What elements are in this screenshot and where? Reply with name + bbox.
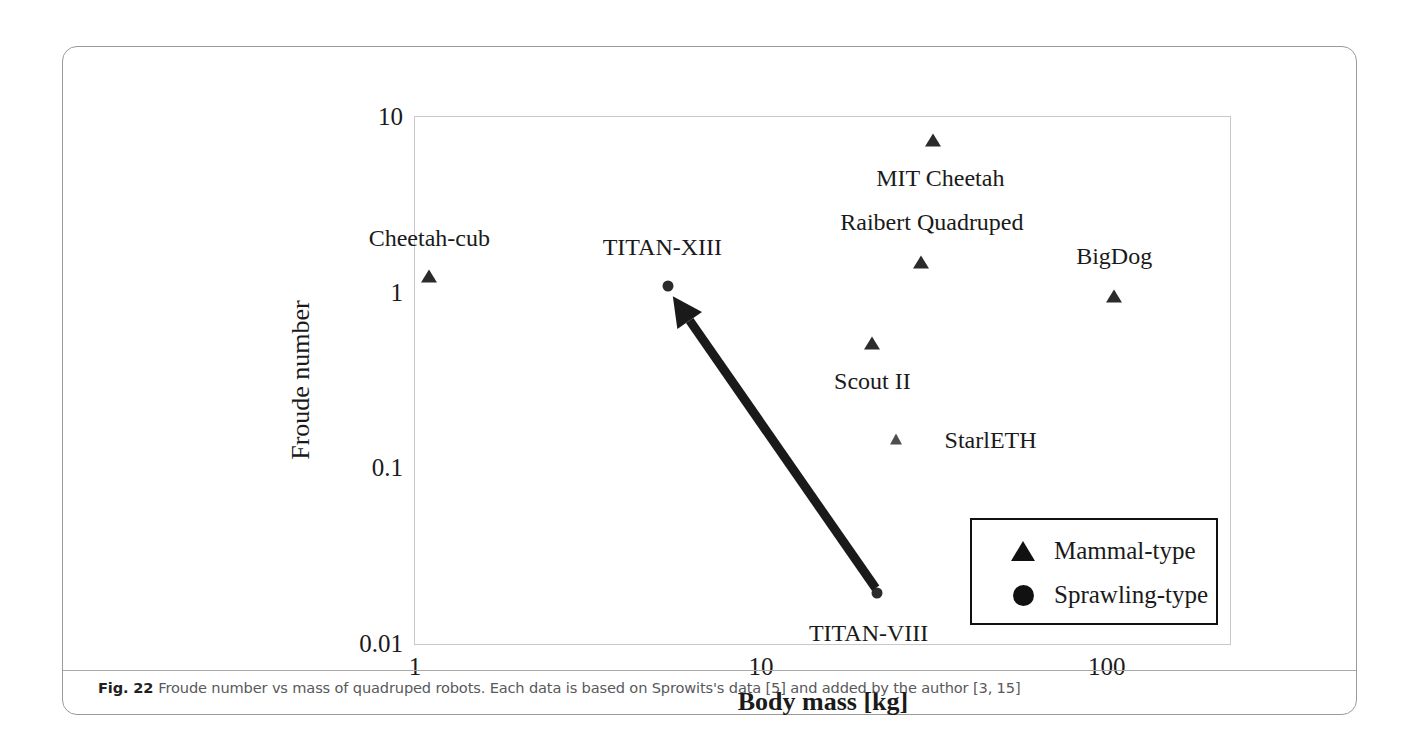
data-point-triangle xyxy=(925,134,941,147)
figure-caption: Fig. 22Froude number vs mass of quadrupe… xyxy=(98,679,1338,696)
data-point-label: Scout II xyxy=(834,368,911,395)
y-tick-label: 1 xyxy=(391,279,404,307)
data-point-label: StarlETH xyxy=(945,426,1037,453)
data-point-label: TITAN-XIII xyxy=(603,234,722,261)
triangle-marker-icon xyxy=(1005,541,1041,561)
legend-item-mammal-type: Mammal-type xyxy=(972,529,1216,573)
x-tick-label: 100 xyxy=(1088,653,1126,681)
data-point-triangle xyxy=(1106,289,1122,302)
y-tick-label: 0.01 xyxy=(359,630,403,658)
y-tick-label: 0.1 xyxy=(372,454,403,482)
circle-marker-icon xyxy=(1005,585,1041,606)
caption-divider xyxy=(63,670,1356,671)
data-point-label: TITAN-VIII xyxy=(809,619,928,646)
data-point-label: Cheetah-cub xyxy=(369,225,490,252)
data-point-triangle xyxy=(864,337,880,350)
data-point-label: Raibert Quadruped xyxy=(840,209,1023,236)
data-point-label: BigDog xyxy=(1076,242,1152,269)
legend-label: Mammal-type xyxy=(1054,537,1196,565)
figure-panel: 10 1 0.1 0.01 1 10 100 Cheetah-cubMIT Ch… xyxy=(62,46,1357,715)
legend-label: Sprawling-type xyxy=(1054,581,1208,609)
y-axis-title: Froude number xyxy=(286,300,316,460)
data-point-triangle xyxy=(913,256,929,269)
chart-legend: Mammal-type Sprawling-type xyxy=(970,518,1218,625)
data-point-circle xyxy=(663,281,674,292)
y-tick-label: 10 xyxy=(378,103,403,131)
x-tick-label: 1 xyxy=(409,653,422,681)
figure-number: Fig. 22 xyxy=(98,679,153,696)
figure-caption-text: Froude number vs mass of quadruped robot… xyxy=(158,679,1020,696)
legend-item-sprawling-type: Sprawling-type xyxy=(972,573,1216,617)
data-point-label: MIT Cheetah xyxy=(876,165,1004,192)
data-point-triangle xyxy=(890,433,902,444)
data-point-circle xyxy=(871,587,882,598)
x-tick-label: 10 xyxy=(748,653,773,681)
data-point-triangle xyxy=(421,270,437,283)
